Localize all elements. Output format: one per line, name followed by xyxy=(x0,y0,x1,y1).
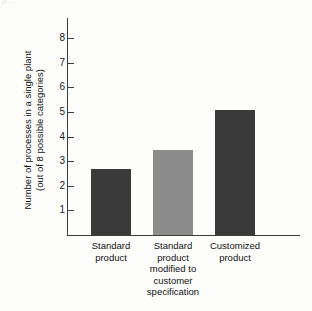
y-tick-1 xyxy=(68,210,74,211)
x-axis-label-1-line-1: Standard xyxy=(80,240,142,252)
x-axis-label-2: Standardproductmodified tocustomerspecif… xyxy=(142,240,204,298)
plot-area: 12345678 Number of processes in a single… xyxy=(0,0,312,311)
x-axis-label-2-line-1: Standard xyxy=(142,240,204,252)
y-tick-6 xyxy=(68,87,74,88)
y-tick-label-2: 2 xyxy=(54,181,65,191)
y-tick-label-6: 6 xyxy=(54,82,65,92)
x-axis-label-3-line-2: product xyxy=(204,252,266,264)
y-tick-label-5: 5 xyxy=(54,107,65,117)
bar-chart-figure: p... 12345678 Number of processes in a s… xyxy=(0,0,312,311)
x-axis-line xyxy=(67,235,300,236)
x-axis-label-2-line-5: specification xyxy=(142,286,204,298)
y-axis-title-line-1: Number of processes in a single plant xyxy=(22,30,34,230)
y-tick-label-4: 4 xyxy=(54,132,65,142)
y-tick-label-7: 7 xyxy=(54,58,65,68)
y-tick-8 xyxy=(68,38,74,39)
x-axis-label-2-line-2: product xyxy=(142,252,204,264)
bar-3[interactable] xyxy=(215,110,255,235)
y-tick-5 xyxy=(68,112,74,113)
bar-2[interactable] xyxy=(153,150,193,235)
x-axis-label-1-line-2: product xyxy=(80,252,142,264)
y-tick-7 xyxy=(68,63,74,64)
y-axis-title: Number of processes in a single plant (o… xyxy=(22,30,46,230)
y-tick-3 xyxy=(68,161,74,162)
y-tick-2 xyxy=(68,186,74,187)
x-axis-label-2-line-3: modified to xyxy=(142,263,204,275)
y-tick-4 xyxy=(68,137,74,138)
x-axis-label-1: Standardproduct xyxy=(80,240,142,263)
y-axis-line xyxy=(67,18,68,235)
y-axis-title-line-2: (out of 8 possible categories) xyxy=(34,30,46,230)
y-tick-label-8: 8 xyxy=(54,33,65,43)
x-axis-label-3: Customizedproduct xyxy=(204,240,266,263)
y-tick-label-3: 3 xyxy=(54,156,65,166)
y-tick-label-1: 1 xyxy=(54,205,65,215)
x-axis-label-2-line-4: customer xyxy=(142,275,204,287)
bar-1[interactable] xyxy=(91,169,131,235)
x-axis-label-3-line-1: Customized xyxy=(204,240,266,252)
